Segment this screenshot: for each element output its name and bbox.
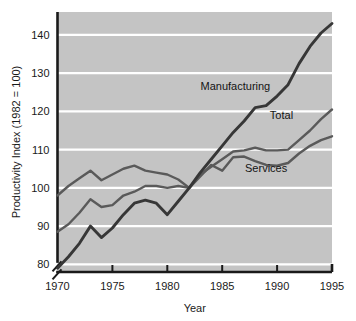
series-label-manufacturing: Manufacturing xyxy=(201,80,271,92)
xtick-label-1995: 1995 xyxy=(320,280,344,292)
series-label-total: Total xyxy=(270,109,293,121)
xtick-label-1970: 1970 xyxy=(45,280,69,292)
ytick-label-130: 130 xyxy=(31,67,49,79)
ytick-label-80: 80 xyxy=(37,258,49,270)
ytick-label-90: 90 xyxy=(37,220,49,232)
y-axis-title: Productivity Index (1982 = 100) xyxy=(10,66,22,219)
productivity-line-chart: 1970197519801985199019958090100110120130… xyxy=(0,0,356,321)
ytick-label-120: 120 xyxy=(31,105,49,117)
x-axis-title: Year xyxy=(184,302,207,314)
xtick-label-1980: 1980 xyxy=(155,280,179,292)
xtick-label-1985: 1985 xyxy=(210,280,234,292)
ytick-label-110: 110 xyxy=(32,144,50,156)
chart-canvas: 1970197519801985199019958090100110120130… xyxy=(0,0,356,321)
series-label-services: Services xyxy=(245,162,288,174)
ytick-label-100: 100 xyxy=(31,182,49,194)
xtick-label-1990: 1990 xyxy=(265,280,289,292)
ytick-label-140: 140 xyxy=(31,29,49,41)
xtick-label-1975: 1975 xyxy=(100,280,124,292)
